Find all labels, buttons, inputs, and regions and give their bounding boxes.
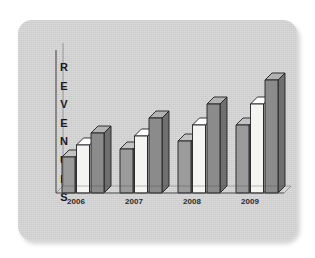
bar-front-face — [265, 80, 278, 193]
axis-end-depth — [284, 186, 291, 193]
x-tick-label-2006: 2006 — [56, 197, 96, 206]
bar-2008-series-3 — [207, 97, 227, 193]
bar-front-face — [207, 104, 220, 193]
x-tick-label-2009: 2009 — [230, 197, 270, 206]
chart-screenshot: R E V E N U E S 2006 2007 2008 2009 — [0, 0, 315, 258]
bar-side-face — [220, 97, 227, 193]
x-tick-label-2008: 2008 — [172, 197, 212, 206]
bar-front-face — [251, 104, 264, 193]
bar-front-face — [178, 141, 191, 193]
x-tick-label-2007: 2007 — [114, 197, 154, 206]
bar-front-face — [91, 133, 104, 193]
bar-2009-series-3 — [265, 73, 285, 193]
bar-2007-series-3 — [149, 111, 169, 193]
bars-layer — [62, 73, 285, 193]
bar-front-face — [236, 125, 249, 193]
chart-panel: R E V E N U E S 2006 2007 2008 2009 — [18, 20, 297, 240]
bar-front-face — [193, 125, 206, 193]
bar-front-face — [149, 118, 162, 193]
bar-side-face — [278, 73, 285, 193]
bar-2006-series-3 — [91, 126, 111, 193]
bar-side-face — [104, 126, 111, 193]
bar-front-face — [135, 136, 148, 193]
bar-front-face — [62, 157, 75, 193]
bar-chart-plot — [18, 20, 297, 240]
bar-side-face — [162, 111, 169, 193]
